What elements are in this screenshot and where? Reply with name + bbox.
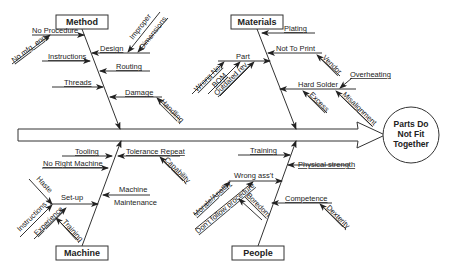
category-people: People Training Physical strength Wrong …	[191, 141, 355, 260]
effect-line-3: Together	[393, 139, 429, 149]
cause-instructions: Instructions	[48, 52, 87, 61]
cause-machine-maintenance-1: Machine	[119, 185, 147, 194]
cause-machine-maintenance-2: Maintenance	[114, 198, 157, 207]
cause-boredom: Boredom	[245, 191, 273, 219]
category-machine: Machine Tooling Tolerance Repeat Capabil…	[15, 141, 192, 260]
cause-no-procedure: No Procedure	[32, 26, 78, 35]
cause-wrong-ass: Wrong ass't	[234, 171, 274, 180]
cause-misalignment: Misalignment	[341, 90, 380, 128]
cause-not-to-print: Not To Print	[276, 44, 316, 53]
effect-node: Parts Do Not Fit Together	[383, 107, 439, 163]
cause-hard-solder: Hard Solder	[298, 80, 339, 89]
cause-routing: Routing	[116, 62, 142, 71]
cause-tooling: Tooling	[75, 147, 99, 156]
cause-vendor: Vendor	[321, 53, 345, 77]
machine-bone	[82, 141, 121, 246]
overheating-line	[340, 78, 352, 88]
cause-dexterity: Dexterity	[325, 203, 352, 230]
cause-competence: Competence	[285, 194, 328, 203]
cause-plating: Plating	[284, 24, 307, 33]
cause-design: Design	[100, 44, 123, 53]
effect-line-1: Parts Do	[394, 119, 429, 129]
cause-set-up: Set-up	[61, 193, 83, 202]
cause-haste: Haste	[35, 174, 55, 194]
cause-training-people: Training	[250, 146, 277, 155]
cause-overheating: Overheating	[350, 70, 391, 79]
people-title: People	[243, 248, 273, 258]
cause-tolerance-repeat: Tolerance Repeat	[126, 147, 186, 156]
cause-physical-strength: Physical strength	[298, 160, 355, 169]
category-method: Method No Procedure No mfg. eng. Design …	[10, 12, 186, 129]
materials-title: Materials	[237, 17, 276, 27]
cause-no-mfg-eng: No mfg. eng.	[10, 32, 50, 65]
cause-handling: Handling	[159, 97, 186, 124]
cause-no-right-machine: No Right Machine	[43, 159, 103, 168]
cause-threads: Threads	[64, 78, 92, 87]
cause-damage: Damage	[125, 88, 153, 97]
cause-excess: Excess	[308, 90, 332, 114]
fishbone-diagram: Parts Do Not Fit Together Method No Proc…	[0, 0, 449, 270]
cause-training-machine: Training	[61, 217, 86, 243]
category-materials: Materials Plating Not To Print Vendor Pa…	[192, 15, 391, 129]
machine-title: Machine	[64, 248, 100, 258]
cause-capability: Capability	[163, 155, 193, 185]
spine-arrow	[18, 122, 385, 148]
effect-line-2: Not Fit	[398, 129, 425, 139]
